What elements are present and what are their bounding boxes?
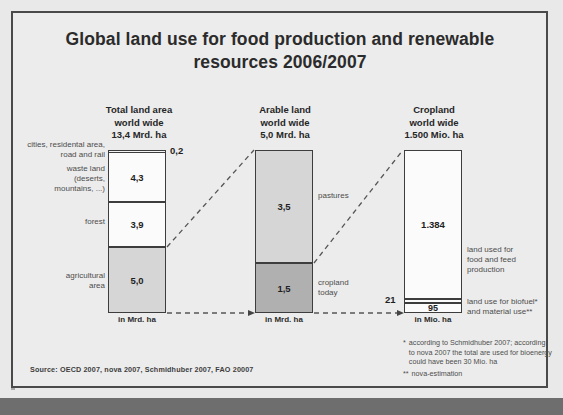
footnote-text: according to Schmidhuber 2007; according… [409, 338, 553, 367]
column-header-total-land-area: Total land area world wide 13,4 Mrd. ha [79, 104, 199, 142]
page-title: Global land use for food production and … [22, 28, 538, 74]
value-label-21: 21 [385, 294, 396, 305]
footnote-text: nova-estimation [412, 369, 553, 379]
category-label-biofuel: land use for biofuel* and material use** [467, 297, 559, 317]
bar-segment-agricultural-area: 5,0 [108, 247, 166, 313]
column-header-cropland: Cropland world wide 1.500 Mio. ha [374, 104, 494, 142]
bar-segment-food-and-feed: 1.384 [404, 150, 462, 299]
axis-caption-total-land-area: in Mrd. ha [94, 315, 180, 324]
category-label-agricultural-area: agricultural area [23, 271, 105, 291]
category-label-waste-land: waste land (deserts, mountains, ...) [23, 164, 105, 194]
bar-segment-forest: 3,9 [108, 202, 166, 247]
axis-caption-arable-land: in Mrd. ha [241, 315, 327, 324]
bar-segment-cropland-today: 1,5 [255, 263, 313, 313]
footnotes: * according to Schmidhuber 2007; accordi… [403, 338, 553, 379]
axis-caption-cropland: in Mio. ha [390, 315, 476, 324]
value-label-cities: 0,2 [170, 145, 183, 156]
footnote-item: * according to Schmidhuber 2007; accordi… [403, 338, 553, 367]
column-header-arable-land: Arable land world wide 5,0 Mrd. ha [225, 104, 345, 142]
footnote-marker: * [403, 338, 406, 367]
footnote-item: ** nova-estimation [403, 369, 553, 379]
bar-segment-waste-land: 4,3 [108, 152, 166, 202]
category-label-forest: forest [23, 217, 105, 227]
category-label-cropland-today: cropland today [318, 278, 388, 298]
source-line: Source: OECD 2007, nova 2007, Schmidhube… [30, 365, 253, 374]
slide-canvas: Global land use for food production and … [0, 0, 563, 415]
bar-segment-pastures: 3,5 [255, 150, 313, 263]
category-label-food-and-feed: land used for food and feed production [467, 245, 553, 275]
footnote-marker: ** [403, 369, 409, 379]
bottom-band [0, 398, 563, 415]
bar-segment-biofuel: 95 [404, 303, 462, 313]
category-label-pastures: pastures [318, 191, 388, 201]
category-label-cities: cities, residental area, road and rail [13, 140, 105, 160]
